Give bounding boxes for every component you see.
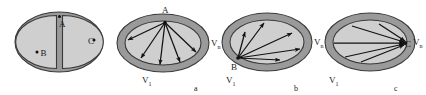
panel-c-group [325, 13, 415, 71]
panel-c-label-Vn-sub: n [420, 43, 423, 49]
panel-c-label-V1: V 1 [329, 75, 339, 87]
panel-b-apex-B-marker [236, 56, 240, 60]
panel-a-label-A: A [162, 5, 169, 15]
panel-c-label-C: C [405, 39, 411, 49]
panel-c-label-Vn: V n [413, 37, 423, 49]
caption-a: a [194, 84, 198, 93]
figure-svg: A B C A V 1 V n B V 1 V n C V 1 V n [0, 0, 426, 95]
panel-a-apex-A-marker [163, 21, 167, 25]
panel-0-point-B-marker [36, 51, 39, 54]
panel-a-group [117, 14, 209, 72]
panel-a-label-Vn: V n [211, 38, 221, 50]
panel-b-label-Vn: V n [314, 37, 324, 49]
panel-0-right-region [63, 16, 104, 69]
panel-b-label-Vn-sub: n [321, 43, 324, 49]
panel-b-label-V1-sub: 1 [233, 81, 236, 87]
caption-c: c [394, 84, 398, 93]
panel-0-label-B: B [41, 48, 47, 58]
caption-b: b [294, 84, 298, 93]
panel-b-label-B: B [231, 62, 237, 72]
panel-0-label-C: C [88, 36, 94, 46]
panel-0-point-A-marker [58, 15, 61, 18]
panel-0-left-region [16, 16, 57, 69]
panel-a-label-V1: V 1 [142, 75, 152, 87]
panel-b-label-V1: V 1 [226, 75, 236, 87]
figure-container: A B C A V 1 V n B V 1 V n C V 1 V n [0, 0, 426, 95]
panel-c-interior [333, 20, 407, 64]
panel-a-label-V1-sub: 1 [149, 81, 152, 87]
panel-a-label-Vn-sub: n [218, 44, 221, 50]
panel-0-label-A: A [59, 19, 66, 29]
panel-c-label-V1-sub: 1 [336, 81, 339, 87]
